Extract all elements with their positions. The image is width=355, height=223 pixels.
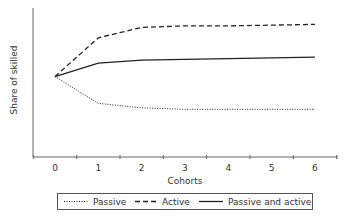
x-tick-label: 4 — [225, 163, 231, 173]
x-tick-label: 1 — [95, 163, 101, 173]
series-line-passive-and-active — [55, 57, 315, 76]
series-line-active — [55, 24, 315, 76]
legend: Passive Active Passive and active — [58, 194, 313, 210]
y-axis-title: Share of skilled — [9, 45, 19, 114]
chart: 0123456 Cohorts Share of skilled Passive… — [0, 0, 355, 223]
x-tick-label: 2 — [139, 163, 145, 173]
x-tick-label: 6 — [312, 163, 318, 173]
series-line-passive — [55, 77, 315, 110]
plot-lines — [55, 24, 315, 109]
x-tick-labels: 0123456 — [52, 163, 318, 173]
x-tick-label: 0 — [52, 163, 58, 173]
x-axis-title: Cohorts — [168, 176, 203, 186]
legend-label-passive: Passive — [93, 197, 127, 207]
legend-label-active: Active — [162, 197, 190, 207]
x-tick-label: 3 — [182, 163, 188, 173]
axes: 0123456 Cohorts Share of skilled — [9, 8, 338, 186]
legend-label-passive-and-active: Passive and active — [228, 197, 312, 207]
x-tick-label: 5 — [269, 163, 275, 173]
